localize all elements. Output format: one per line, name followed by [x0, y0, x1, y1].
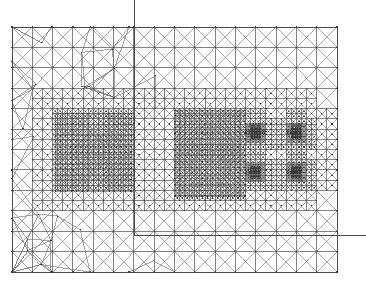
mesh-canvas [0, 0, 366, 285]
mesh-figure [0, 0, 366, 285]
